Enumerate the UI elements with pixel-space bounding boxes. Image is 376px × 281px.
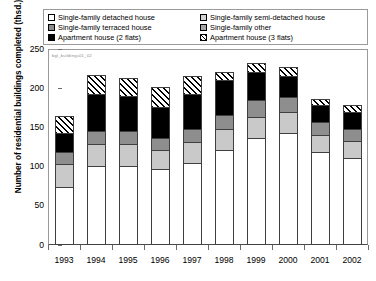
- bar-segment: [312, 136, 329, 153]
- x-tick-mark: [272, 245, 273, 250]
- stacked-bar[interactable]: [151, 87, 170, 245]
- bar-segment: [184, 77, 201, 96]
- bar-slot: [215, 49, 234, 245]
- y-tick-label: 50: [18, 201, 44, 210]
- bar-segment: [120, 79, 137, 97]
- y-tick-label: 250: [18, 45, 44, 54]
- bar-segment: [152, 170, 169, 244]
- bar-segment: [120, 145, 137, 167]
- legend-label-apartment-3-flats: Apartment house (3 flats): [210, 33, 293, 42]
- bar-segment: [216, 116, 233, 130]
- bar-segment: [56, 153, 73, 165]
- bar-segment: [344, 142, 361, 159]
- stacked-bar[interactable]: [215, 72, 234, 245]
- y-tick-label: 0: [18, 241, 44, 250]
- x-tick-mark: [80, 245, 81, 250]
- bar-segment: [280, 77, 297, 99]
- y-tick-label: 150: [18, 123, 44, 132]
- legend-label-apartment-2-flats: Apartment house (2 flats): [58, 33, 141, 42]
- bar-segment: [88, 132, 105, 145]
- bar-segment: [56, 117, 73, 134]
- bar-segment: [152, 139, 169, 151]
- x-tick-mark: [368, 245, 369, 250]
- x-tick-mark: [144, 245, 145, 250]
- bar-segment: [120, 97, 137, 132]
- bar-series-container: [48, 49, 368, 245]
- bar-segment: [88, 167, 105, 244]
- bar-segment: [344, 159, 361, 244]
- bar-slot: [87, 49, 106, 245]
- legend-label-semi-detached: Single-family semi-detached house: [210, 13, 325, 22]
- bar-segment: [56, 188, 73, 244]
- bar-segment: [216, 151, 233, 244]
- bar-slot: [151, 49, 170, 245]
- stacked-bar[interactable]: [247, 63, 266, 245]
- legend-label-terraced: Single-family terraced house: [58, 23, 152, 32]
- bar-slot: [247, 49, 266, 245]
- bar-segment: [344, 130, 361, 142]
- y-tick-label: 200: [18, 84, 44, 93]
- bar-segment: [248, 139, 265, 244]
- bar-segment: [56, 134, 73, 153]
- stacked-bar[interactable]: [87, 75, 106, 245]
- hatched-square-icon: [200, 34, 207, 41]
- stacked-bar[interactable]: [183, 76, 202, 245]
- bar-segment: [184, 164, 201, 244]
- x-tick-mark: [112, 245, 113, 250]
- stacked-bar[interactable]: [343, 105, 362, 245]
- bar-segment: [280, 98, 297, 113]
- bar-segment: [312, 106, 329, 123]
- x-tick-mark: [176, 245, 177, 250]
- chart-legend: Single-family detached house Single-fami…: [43, 9, 368, 45]
- bar-segment: [56, 165, 73, 188]
- stacked-bar[interactable]: [119, 78, 138, 245]
- bar-segment: [152, 88, 169, 108]
- bar-slot: [183, 49, 202, 245]
- x-tick-mark: [240, 245, 241, 250]
- legend-label-detached: Single-family detached house: [58, 13, 155, 22]
- bar-segment: [216, 73, 233, 82]
- bar-segment: [280, 68, 297, 77]
- bar-slot: [311, 49, 330, 245]
- bar-segment: [312, 123, 329, 135]
- x-tick-label: 2002: [336, 256, 368, 265]
- bar-segment: [216, 81, 233, 116]
- stacked-bar[interactable]: [55, 116, 74, 245]
- medium-gray-square-icon: [200, 24, 207, 31]
- bar-segment: [184, 95, 201, 130]
- white-square-icon: [48, 14, 55, 21]
- bar-segment: [248, 118, 265, 140]
- bar-segment: [312, 153, 329, 244]
- bar-segment: [152, 151, 169, 170]
- legend-item-semi-detached: Single-family semi-detached house: [200, 12, 364, 22]
- x-tick-mark: [304, 245, 305, 250]
- bar-segment: [88, 145, 105, 167]
- bar-segment: [344, 113, 361, 130]
- legend-item-other: Single-family other: [200, 22, 364, 32]
- x-tick-label: 1999: [240, 256, 272, 265]
- light-gray-square-icon: [200, 14, 207, 21]
- legend-label-other: Single-family other: [210, 23, 271, 32]
- dark-gray-square-icon: [48, 24, 55, 31]
- bar-segment: [88, 95, 105, 131]
- bar-segment: [184, 130, 201, 143]
- bar-segment: [88, 76, 105, 95]
- legend-item-apartment-3-flats: Apartment house (3 flats): [200, 32, 364, 42]
- x-tick-label: 2001: [304, 256, 336, 265]
- x-tick-label: 1996: [144, 256, 176, 265]
- stacked-bar[interactable]: [311, 99, 330, 245]
- bar-segment: [216, 130, 233, 151]
- bar-segment: [248, 101, 265, 117]
- legend-item-apartment-2-flats: Apartment house (2 flats): [48, 32, 200, 42]
- x-tick-mark: [336, 245, 337, 250]
- x-tick-label: 1995: [112, 256, 144, 265]
- bar-segment: [120, 167, 137, 244]
- bar-segment: [152, 108, 169, 139]
- bar-segment: [120, 132, 137, 145]
- bar-segment: [184, 143, 201, 164]
- legend-item-detached: Single-family detached house: [48, 12, 200, 22]
- bar-segment: [280, 113, 297, 134]
- stacked-bar[interactable]: [279, 67, 298, 245]
- x-tick-label: 1993: [48, 256, 80, 265]
- bar-slot: [55, 49, 74, 245]
